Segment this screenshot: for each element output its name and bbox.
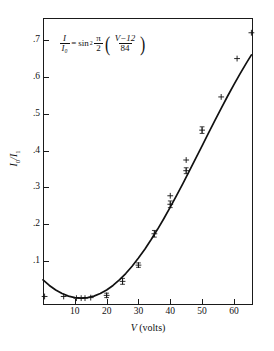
y-tick-mark [43,114,49,115]
y-tick-mark [43,40,49,41]
x-tick-mark [107,299,108,305]
y-tick-label-wrap: .1 [20,256,40,266]
y-tick-label: .1 [20,256,40,266]
x-tick-label-wrap: 60 [221,307,247,319]
x-tick-label: 40 [157,307,183,317]
equation-sin: sin [78,39,89,48]
equation-annotation: I I₀ = sin2 π 2 ( V−12 84 ) [58,34,146,54]
x-tick-label-wrap: 20 [94,307,120,319]
equation-pi: π [94,34,103,43]
x-axis-title-unit: (volts) [137,322,166,333]
x-tick-mark [234,299,235,305]
y-tick-label-wrap: .3 [20,182,40,192]
equation-lhs-numerator: I [61,34,68,43]
y-tick-label: .4 [20,146,40,156]
x-tick-mark [138,299,139,305]
y-tick-label: .6 [20,72,40,82]
equation-lhs-fraction: I I₀ [60,34,70,54]
x-tick-mark [170,299,171,305]
y-tick-label-wrap: .4 [20,146,40,156]
equation-inner-fraction: V−12 84 [113,34,138,54]
equation-inner-denominator: 84 [119,43,132,53]
equation-pi-over-two: π 2 [94,34,103,54]
x-tick-label: 50 [189,307,215,317]
y-tick-mark [43,261,49,262]
x-tick-label-wrap: 40 [157,307,183,319]
equation-inner-numerator: V−12 [113,34,138,43]
y-tick-label-wrap: .7 [20,35,40,45]
figure-container: I I₀ = sin2 π 2 ( V−12 84 ) V (volts) I0… [0,0,274,351]
x-tick-label: 30 [125,307,151,317]
x-tick-label: 20 [94,307,120,317]
x-tick-label: 10 [62,307,88,317]
y-tick-label-wrap: .2 [20,219,40,229]
y-axis-title: I0/I1 [8,136,21,182]
y-tick-mark [43,77,49,78]
x-tick-mark [202,299,203,305]
x-tick-label-wrap: 10 [62,307,88,319]
x-tick-mark [75,299,76,305]
y-tick-label: .3 [20,182,40,192]
equation-equals: = [71,39,76,48]
x-axis-title: V (volts) [43,322,253,333]
right-paren: ) [140,36,145,53]
y-tick-mark [43,224,49,225]
equation-lhs-denominator: I₀ [60,43,70,53]
x-tick-label: 60 [221,307,247,317]
y-tick-mark [43,151,49,152]
y-tick-label: .5 [20,109,40,119]
plot-frame [43,18,253,305]
x-tick-label-wrap: 50 [189,307,215,319]
x-tick-label-wrap: 30 [125,307,151,319]
y-tick-label: .2 [20,219,40,229]
y-tick-label-wrap: .6 [20,72,40,82]
y-tick-label-wrap: .5 [20,109,40,119]
left-paren: ( [105,36,110,53]
y-tick-label: .7 [20,35,40,45]
equation-two: 2 [94,43,103,53]
y-tick-mark [43,187,49,188]
equation-exponent: 2 [90,41,93,47]
